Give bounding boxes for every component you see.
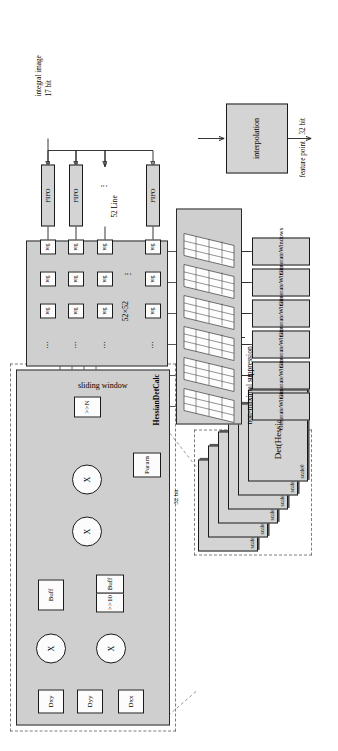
reg-label: reg	[150, 243, 156, 250]
reg-label: reg	[45, 275, 51, 282]
reg-r3-c1: reg	[97, 239, 113, 254]
reg-row2-ellipsis: ⋯	[72, 340, 80, 348]
sliding-window-label: sliding window	[78, 381, 128, 389]
interpolation-label: interpolation	[253, 118, 261, 159]
shift-right-10-label: >>10	[107, 595, 114, 610]
shift-right-n-box: >>N	[74, 396, 101, 417]
fifo-1: FIFO	[41, 164, 55, 226]
figure-canvas: Dxy Dyy Dxx X X X X Buff >>10 Buff P	[0, 0, 338, 751]
reg-row1-ellipsis: ⋯	[44, 340, 52, 348]
reg-r1-c3: reg	[40, 303, 56, 318]
sliding-window-size-label: 52×52	[122, 300, 130, 321]
reg-label: reg	[45, 307, 51, 314]
reg-r2-c2: reg	[68, 271, 84, 286]
reg-label: reg	[73, 243, 79, 250]
nms-slab-group	[176, 208, 242, 424]
nms-slab-6	[184, 233, 234, 267]
scale-0-label: scale0	[300, 464, 306, 478]
reg-r3-c3: reg	[97, 303, 113, 318]
fifo-2: FIFO	[69, 164, 83, 226]
non-maximal-suppression-label: non-maximal suppression	[246, 346, 254, 424]
param-box: Param	[133, 452, 161, 477]
buffer-2-label: Buff	[107, 577, 114, 590]
reg-label: reg	[150, 307, 156, 314]
param-label: Param	[144, 456, 151, 474]
reg-label: reg	[45, 243, 51, 250]
nms-slab-3	[184, 326, 234, 360]
reg-r3-c2: reg	[97, 271, 113, 286]
det-hessian-bus-label: 32 bit	[173, 489, 180, 504]
figure-rotated-container: Dxy Dyy Dxx X X X X Buff >>10 Buff P	[0, 0, 338, 751]
generate-windows-6: GenerateWindows	[252, 237, 310, 265]
input-dxx-label: Dxx	[128, 695, 135, 707]
sliding-window-vertical-ellipsis: ⋮	[124, 269, 132, 277]
reg-r4-c1: reg	[145, 239, 161, 254]
multiplier-3-label: X	[83, 528, 92, 534]
buffer-1-box: Buff	[38, 579, 64, 610]
multiplier-1-label: X	[47, 645, 56, 651]
multiplier-3: X	[72, 516, 102, 546]
input-dxy-box: Dxy	[38, 689, 64, 713]
integral-image-input-label-1: integral image	[36, 55, 43, 96]
reg-r1-c2: reg	[40, 271, 56, 286]
hessian-det-calc-group-label: HessianDetCalc	[153, 374, 161, 425]
generate-windows-6-label: GenerateWindows	[278, 227, 284, 274]
fifo-stack-ellipsis: ⋮	[100, 181, 108, 189]
feature-point-output-label-1: feature point	[300, 140, 307, 177]
nms-slab-1	[184, 388, 234, 422]
fifo-line-count-label: 52 Line	[112, 195, 119, 217]
reg-row4-ellipsis: ⋯	[149, 340, 157, 348]
multiplier-2: X	[96, 633, 126, 663]
fifo-2-label: FIFO	[73, 188, 80, 202]
reg-r4-c2: reg	[145, 271, 161, 286]
shift-right-10-box: >>10	[96, 592, 124, 612]
buffer-2-box: Buff	[96, 574, 124, 593]
buffer-1-label: Buff	[48, 588, 55, 601]
feature-point-output-label-2: 32 bit	[300, 117, 307, 134]
input-dyy-box: Dyy	[77, 689, 103, 713]
fifo-1-label: FIFO	[45, 188, 52, 202]
input-dyy-label: Dyy	[87, 695, 94, 707]
multiplier-1: X	[36, 633, 66, 663]
reg-row3-ellipsis: ⋯	[101, 340, 109, 348]
reg-label: reg	[102, 307, 108, 314]
multiplier-2-label: X	[107, 645, 116, 651]
nms-slab-5	[184, 264, 234, 298]
reg-label: reg	[73, 275, 79, 282]
integral-image-input-label-2: 17 bit	[46, 79, 53, 96]
reg-r2-c1: reg	[68, 239, 84, 254]
multiplier-4-label: X	[83, 476, 92, 482]
input-dxy-label: Dxy	[48, 695, 55, 707]
fifo-3: FIFO	[146, 164, 160, 226]
reg-r1-c1: reg	[40, 239, 56, 254]
reg-r4-c3: reg	[145, 303, 161, 318]
nms-slab-4	[184, 295, 234, 329]
interpolation-box: interpolation	[226, 103, 288, 173]
reg-label: reg	[102, 243, 108, 250]
reg-label: reg	[150, 275, 156, 282]
reg-label: reg	[102, 275, 108, 282]
shift-right-n-label: >>N	[84, 400, 91, 413]
fifo-3-label: FIFO	[150, 188, 157, 202]
hessian-det-calc-panel	[16, 369, 170, 725]
nms-slab-2	[184, 357, 234, 391]
input-dxx-box: Dxx	[118, 689, 144, 713]
reg-label: reg	[73, 307, 79, 314]
multiplier-4: X	[72, 464, 102, 494]
reg-r2-c3: reg	[68, 303, 84, 318]
